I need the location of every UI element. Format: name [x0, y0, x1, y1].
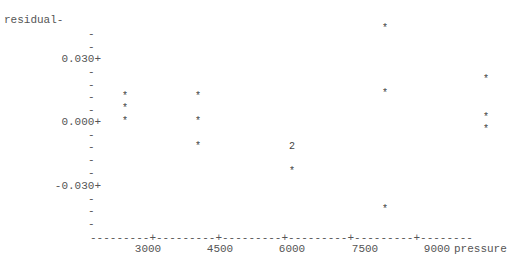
x-tick-label: 6000 — [279, 243, 305, 255]
y-minor-tick: - — [88, 193, 95, 205]
y-axis-title: residual- — [4, 14, 63, 26]
y-minor-tick: - — [88, 129, 95, 141]
data-point-marker: * — [122, 117, 128, 127]
y-minor-tick: - — [88, 28, 95, 40]
y-minor-tick: - — [88, 141, 95, 153]
data-point-marker: * — [195, 142, 201, 152]
y-minor-tick: - — [88, 66, 95, 78]
y-minor-tick: - — [88, 167, 95, 179]
data-point-marker: * — [122, 104, 128, 114]
x-axis-title: pressure — [454, 243, 507, 255]
data-point-marker: * — [483, 113, 489, 123]
data-point-marker: * — [483, 75, 489, 85]
y-minor-tick: - — [88, 205, 95, 217]
y-minor-tick: - — [88, 154, 95, 166]
y-minor-tick: - — [88, 79, 95, 91]
x-tick-label: 3000 — [135, 243, 161, 255]
data-point-marker: * — [382, 24, 388, 34]
data-point-marker: * — [195, 117, 201, 127]
y-minor-tick: - — [88, 218, 95, 230]
y-tick-label: 0.000+ — [61, 116, 101, 128]
x-tick-label: 7500 — [352, 243, 378, 255]
data-point-count-marker: 2 — [289, 142, 295, 152]
y-minor-tick: - — [88, 41, 95, 53]
x-tick-label: 4500 — [207, 243, 233, 255]
data-point-marker: * — [122, 92, 128, 102]
y-minor-tick: - — [88, 104, 95, 116]
y-tick-label: -0.030+ — [55, 180, 101, 192]
y-minor-tick: - — [88, 91, 95, 103]
data-point-marker: * — [195, 92, 201, 102]
x-tick-label: 9000 — [424, 243, 450, 255]
data-point-marker: * — [483, 125, 489, 135]
data-point-marker: * — [289, 167, 295, 177]
data-point-marker: * — [382, 205, 388, 215]
data-point-marker: * — [382, 89, 388, 99]
y-tick-label: 0.030+ — [61, 53, 101, 65]
